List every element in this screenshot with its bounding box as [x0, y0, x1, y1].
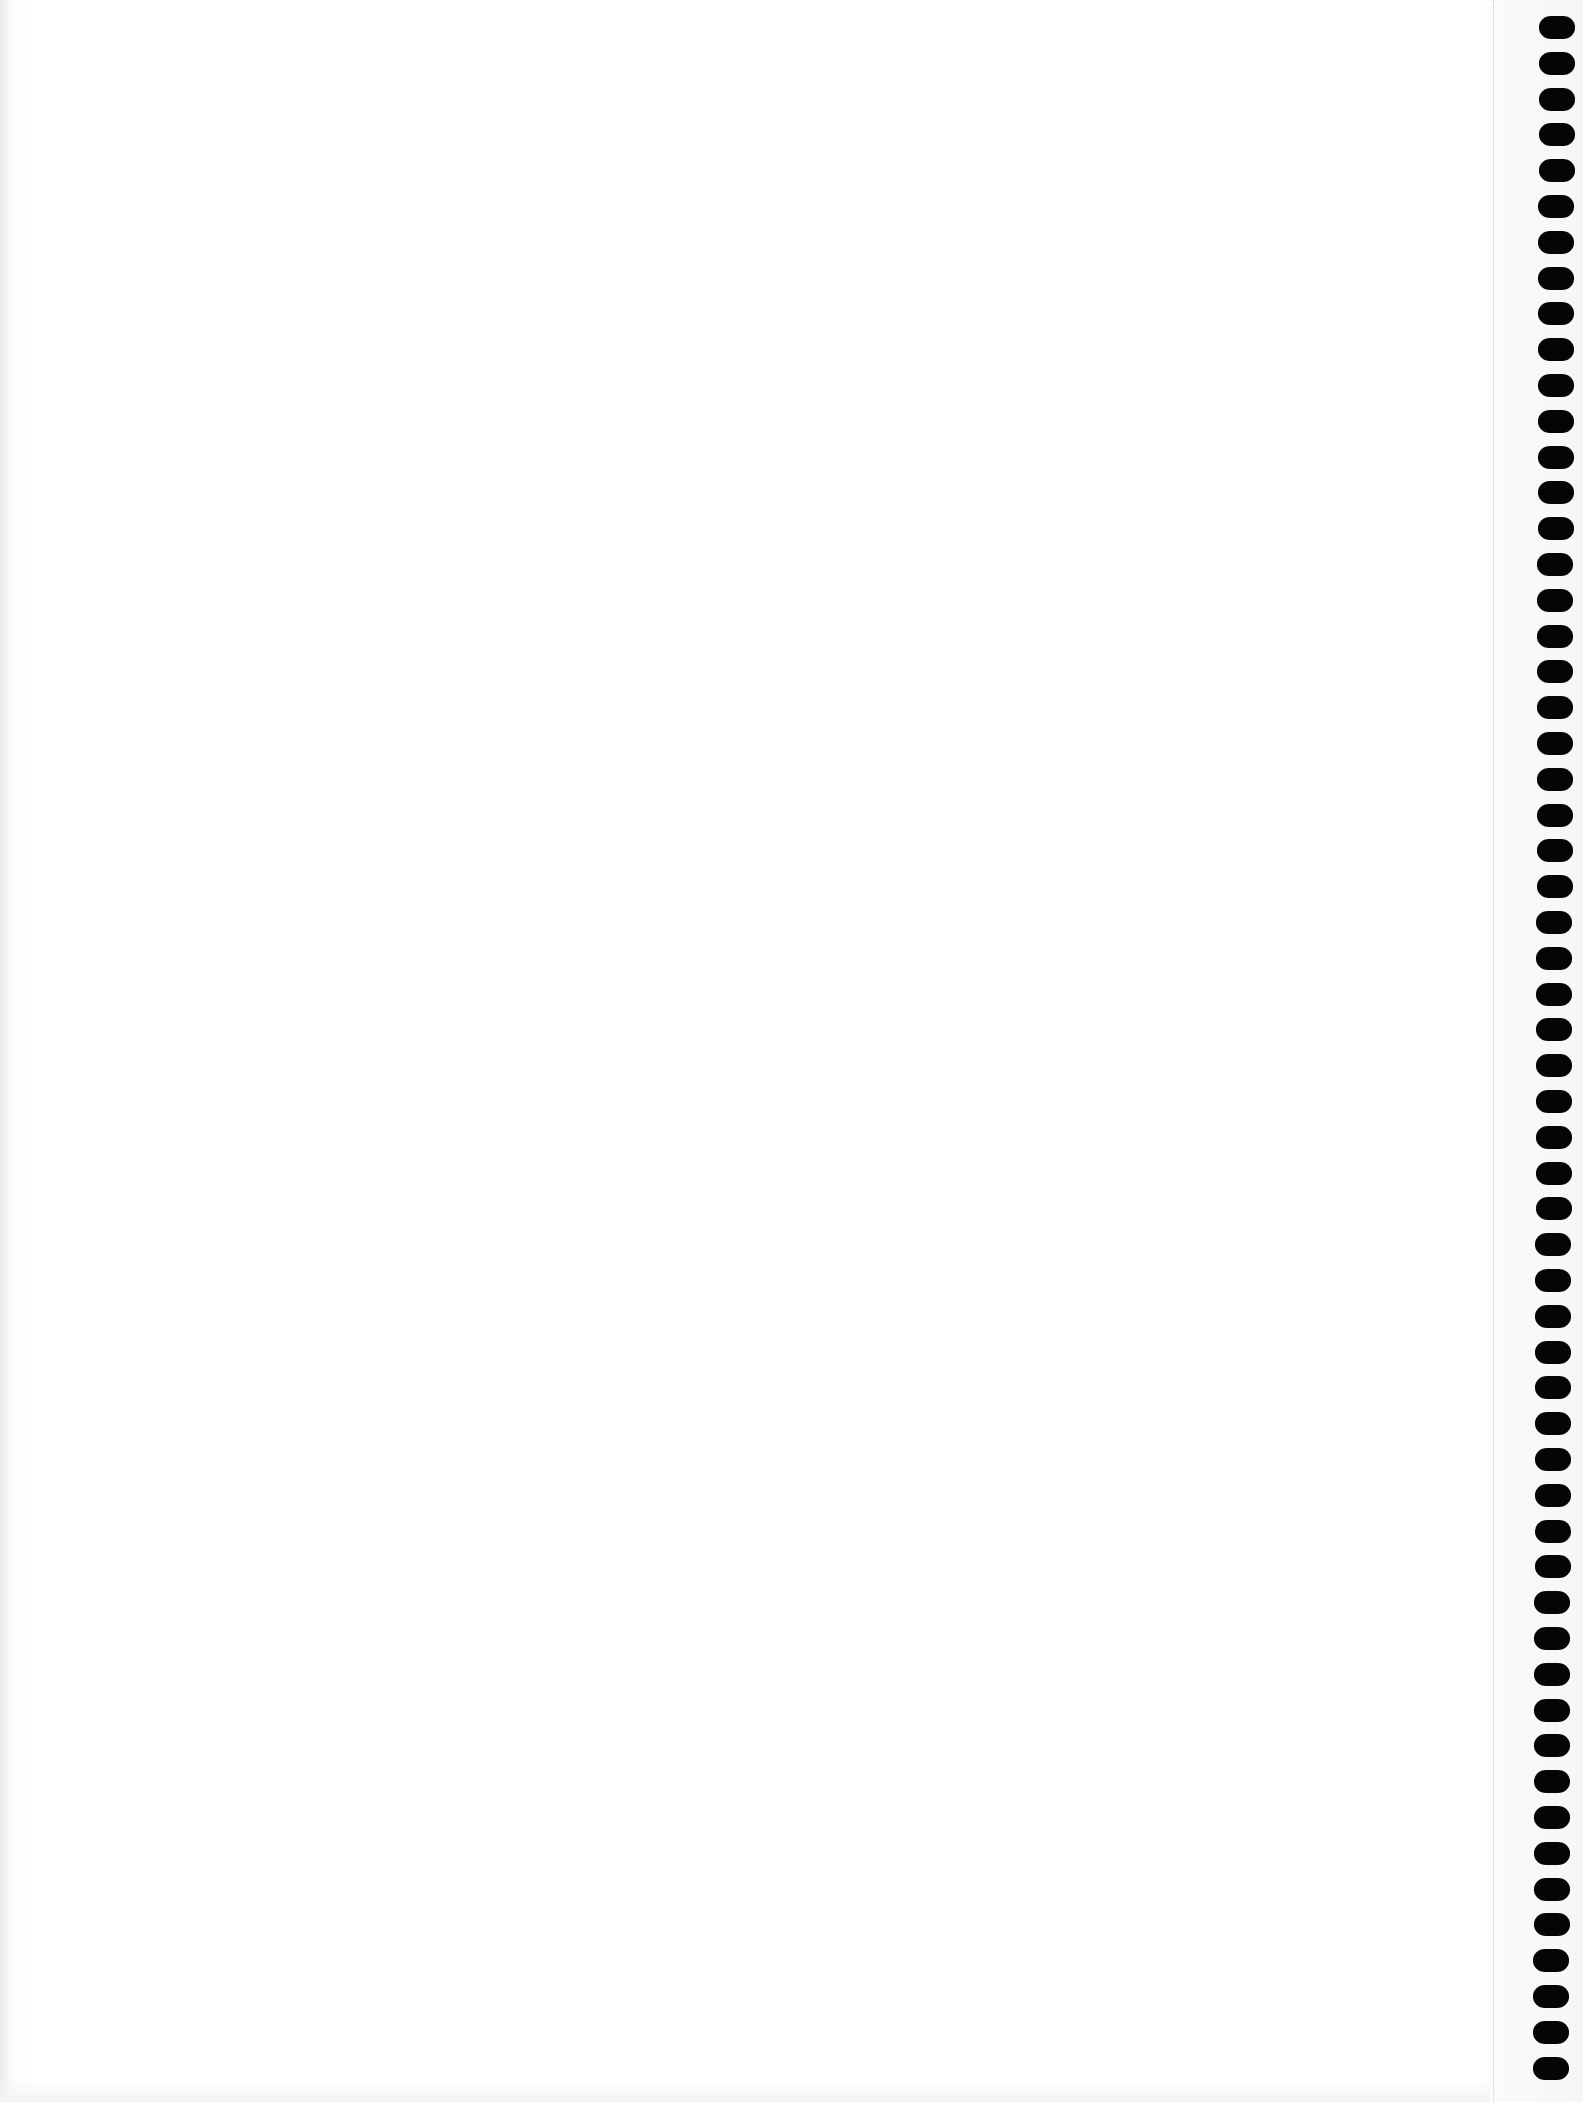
- binding-hole: [1538, 231, 1574, 254]
- binding-hole: [1537, 732, 1573, 755]
- binding-hole: [1535, 1376, 1571, 1399]
- binding-hole: [1539, 52, 1575, 75]
- binding-hole: [1536, 1090, 1572, 1113]
- binding-hole: [1539, 123, 1575, 146]
- binding-hole: [1534, 1699, 1570, 1722]
- binding-hole: [1534, 1770, 1570, 1793]
- page-bottom-edge: [0, 2080, 1490, 2102]
- binding-hole: [1538, 410, 1574, 433]
- binding-hole: [1534, 1842, 1570, 1865]
- binding-hole: [1535, 1269, 1571, 1292]
- binding-hole: [1537, 625, 1573, 648]
- binding-hole: [1536, 983, 1572, 1006]
- spiral-binding-holes: [1535, 0, 1575, 2102]
- binding-hole: [1535, 1233, 1571, 1256]
- notebook-page: [0, 0, 1583, 2102]
- binding-hole: [1533, 1985, 1569, 2008]
- binding-hole: [1535, 1484, 1571, 1507]
- binding-hole: [1535, 1412, 1571, 1435]
- binding-hole: [1539, 159, 1575, 182]
- binding-hole: [1538, 267, 1574, 290]
- binding-hole: [1536, 1126, 1572, 1149]
- binding-hole: [1536, 911, 1572, 934]
- binding-hole: [1535, 1520, 1571, 1543]
- page-left-edge: [0, 0, 10, 2102]
- binding-hole: [1537, 768, 1573, 791]
- binding-hole: [1536, 1197, 1572, 1220]
- binding-hole: [1538, 481, 1574, 504]
- binding-hole: [1535, 1341, 1571, 1364]
- binding-hole: [1533, 1949, 1569, 1972]
- binding-hole: [1537, 875, 1573, 898]
- perforation-line: [1493, 0, 1494, 2102]
- binding-hole: [1533, 2021, 1569, 2044]
- binding-hole: [1539, 88, 1575, 111]
- binding-hole: [1537, 696, 1573, 719]
- binding-hole: [1536, 1018, 1572, 1041]
- binding-hole: [1537, 553, 1573, 576]
- binding-hole: [1537, 589, 1573, 612]
- binding-hole: [1538, 517, 1574, 540]
- binding-hole: [1534, 1591, 1570, 1614]
- binding-hole: [1534, 1627, 1570, 1650]
- binding-hole: [1534, 1806, 1570, 1829]
- binding-hole: [1536, 1162, 1572, 1185]
- binding-hole: [1535, 1555, 1571, 1578]
- binding-hole: [1534, 1913, 1570, 1936]
- binding-hole: [1539, 16, 1575, 39]
- binding-hole: [1536, 947, 1572, 970]
- binding-hole: [1538, 195, 1574, 218]
- binding-hole: [1534, 1734, 1570, 1757]
- binding-hole: [1535, 1448, 1571, 1471]
- binding-hole: [1538, 446, 1574, 469]
- binding-hole: [1538, 302, 1574, 325]
- binding-hole: [1534, 1663, 1570, 1686]
- binding-hole: [1537, 660, 1573, 683]
- binding-hole: [1538, 374, 1574, 397]
- binding-hole: [1535, 1305, 1571, 1328]
- binding-hole: [1533, 2057, 1569, 2080]
- binding-hole: [1537, 839, 1573, 862]
- binding-hole: [1537, 804, 1573, 827]
- binding-hole: [1538, 338, 1574, 361]
- binding-hole: [1534, 1878, 1570, 1901]
- binding-hole: [1536, 1054, 1572, 1077]
